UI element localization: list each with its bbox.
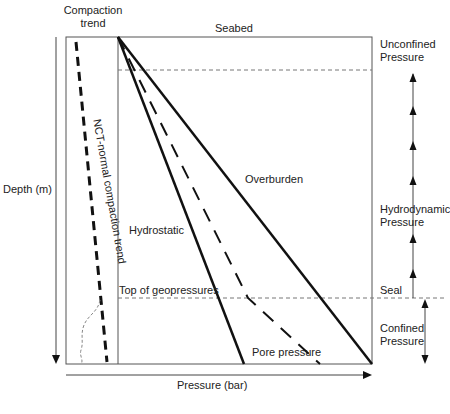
confined-line2: Pressure	[380, 335, 424, 348]
confined-pressure-label: Confined Pressure	[380, 322, 424, 348]
unconfined-line1: Unconfined	[380, 38, 436, 51]
arrow-up-icon	[410, 234, 417, 243]
arrow-up-icon	[410, 73, 417, 82]
arrow-up-icon	[410, 141, 417, 150]
pressure-arrow-icon	[363, 371, 372, 379]
arrow-up-icon	[410, 106, 417, 115]
unconfined-pressure-label: Unconfined Pressure	[380, 38, 436, 64]
top-geopressures-label: Top of geopressures	[119, 284, 219, 297]
pressure-axis-label: Pressure (bar)	[177, 379, 247, 392]
seal-label: Seal	[380, 284, 402, 297]
pore-pressure-line	[118, 37, 320, 364]
overburden-label: Overburden	[245, 173, 303, 186]
compaction-trend-line1: Compaction	[60, 4, 126, 17]
hydrodynamic-pressure-label: Hydrodynamic Pressure	[380, 203, 450, 229]
overburden-line	[118, 37, 372, 364]
pore-pressure-label: Pore pressure	[252, 346, 321, 359]
seabed-label: Seabed	[215, 22, 253, 35]
arrow-down-icon	[422, 355, 429, 364]
hydrostatic-line	[118, 37, 244, 364]
hydrodynamic-line1: Hydrodynamic	[380, 203, 450, 216]
arrow-up-icon	[422, 299, 429, 308]
arrow-up-icon	[410, 269, 417, 278]
unconfined-line2: Pressure	[380, 51, 436, 64]
arrow-up-icon	[410, 176, 417, 185]
confined-line1: Confined	[380, 322, 424, 335]
compaction-deviation-line	[81, 300, 100, 364]
hydrodynamic-line2: Pressure	[380, 216, 450, 229]
depth-arrow-icon	[52, 355, 60, 364]
compaction-trend-title: Compaction trend	[60, 4, 126, 30]
depth-axis-label: Depth (m)	[3, 183, 52, 196]
compaction-trend-line2: trend	[60, 17, 126, 30]
hydrostatic-label: Hydrostatic	[129, 224, 184, 237]
